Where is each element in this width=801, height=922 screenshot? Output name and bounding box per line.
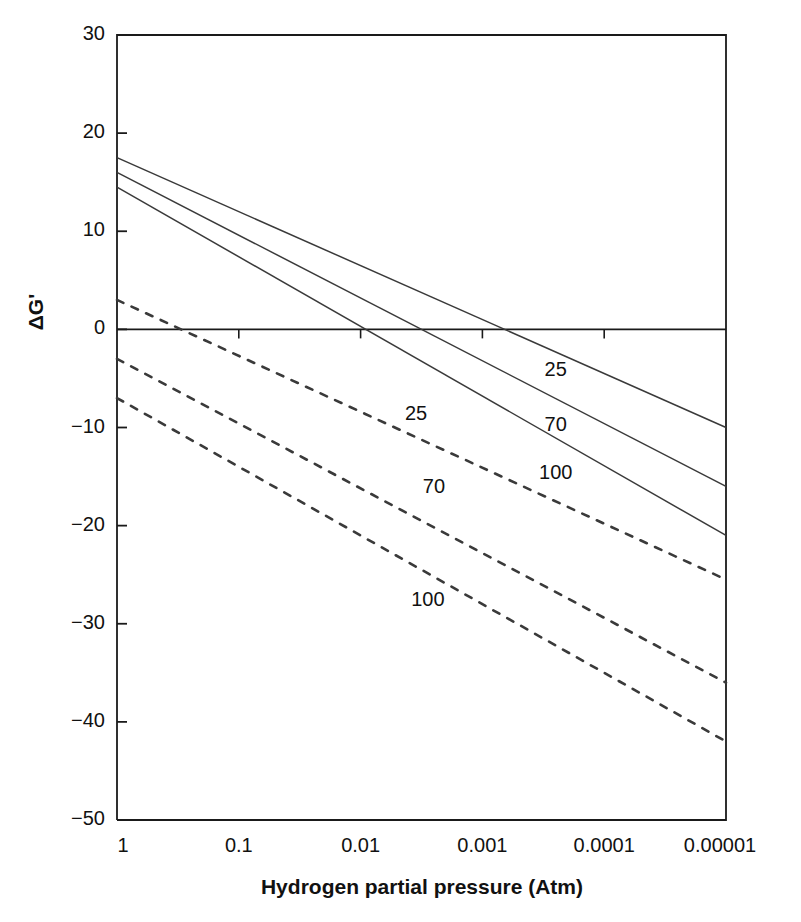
curve-label-70: 70	[545, 412, 567, 435]
curve-label-25: 25	[545, 357, 567, 380]
y-axis-ticks	[117, 133, 127, 722]
plot-area	[0, 0, 801, 922]
curve-label-100-dashed: 100	[411, 588, 444, 611]
zero-reference-line	[117, 329, 726, 338]
y-tick-label: −40	[35, 709, 105, 732]
y-tick-label: 10	[35, 218, 105, 241]
x-tick-label: 0.00001	[684, 834, 756, 857]
series-line-25	[117, 158, 726, 428]
chart-figure: 3020100−10−20−30−40−50 10.10.010.0010.00…	[0, 0, 801, 922]
axis-frame	[117, 35, 726, 820]
data-series-group	[117, 158, 726, 742]
series-line-100-dashed	[117, 398, 726, 741]
plot-border	[117, 35, 726, 820]
curve-label-25-dashed: 25	[405, 401, 427, 424]
x-axis-title: Hydrogen partial pressure (Atm)	[117, 875, 727, 899]
curve-label-70-dashed: 70	[423, 475, 445, 498]
y-tick-label: −20	[35, 513, 105, 536]
y-axis-title: ΔG'	[24, 282, 48, 342]
x-tick-label: 0.001	[457, 834, 507, 857]
curve-label-100: 100	[539, 460, 572, 483]
y-tick-label: −10	[35, 415, 105, 438]
y-tick-label: 30	[35, 22, 105, 45]
y-tick-label: −50	[35, 807, 105, 830]
x-tick-label: 0.0001	[574, 834, 635, 857]
x-tick-label: 0.01	[341, 834, 380, 857]
y-tick-label: −30	[35, 611, 105, 634]
x-tick-label: 1	[117, 834, 128, 857]
series-line-100	[117, 187, 726, 535]
y-tick-label: 20	[35, 120, 105, 143]
x-tick-label: 0.1	[225, 834, 253, 857]
